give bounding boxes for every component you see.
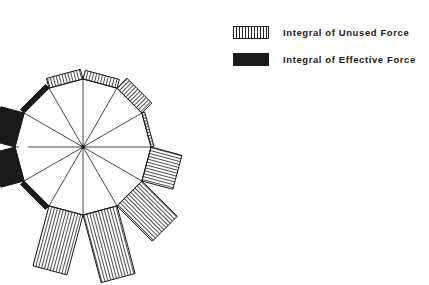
legend-item-effective: Integral of Effective Force (233, 52, 416, 66)
unused-force-bar (83, 70, 119, 88)
force-bars (0, 69, 182, 282)
unused-force-bar (33, 206, 83, 275)
legend-item-unused: Integral of Unused Force (233, 25, 416, 39)
center-hub (81, 145, 85, 149)
legend-label-unused: Integral of Unused Force (283, 27, 409, 38)
unused-force-bar (46, 69, 83, 88)
solid-swatch-icon (233, 53, 269, 66)
unused-force-bar (142, 112, 154, 147)
legend-label-effective: Integral of Effective Force (283, 54, 416, 65)
effective-force-bar (21, 85, 49, 113)
effective-force-bar (21, 181, 49, 209)
unused-force-bar (142, 147, 182, 189)
unused-force-bar (117, 78, 152, 113)
legend: Integral of Unused Force Integral of Eff… (233, 25, 416, 79)
hatch-swatch-icon (233, 26, 269, 39)
unused-force-bar (83, 206, 135, 283)
unused-force-bar (117, 181, 177, 241)
white-arrow-marker (18, 143, 28, 151)
